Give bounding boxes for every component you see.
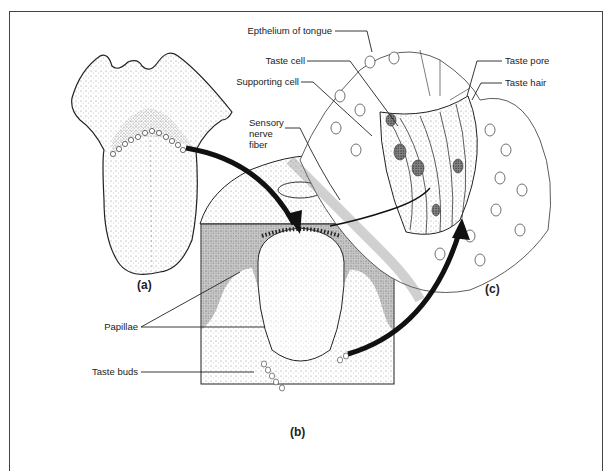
label-taste-pore: Taste pore <box>505 55 549 66</box>
panel-label-c: (c) <box>485 282 500 296</box>
label-taste-buds: Taste buds <box>80 366 138 377</box>
label-epithelium: Epthelium of tongue <box>232 25 332 36</box>
label-sensory-nerve-line3: fiber <box>249 139 267 150</box>
panel-label-b: (b) <box>290 425 305 439</box>
label-taste-cell: Taste cell <box>255 55 305 66</box>
label-taste-hair: Taste hair <box>505 77 546 88</box>
panel-label-a: (a) <box>137 278 152 292</box>
label-sensory-nerve-line1: Sensory <box>249 117 284 128</box>
label-supporting-cell: Supporting cell <box>226 76 299 87</box>
label-sensory-nerve-line2: nerve <box>249 128 273 139</box>
label-papillae: Papillae <box>90 321 138 332</box>
